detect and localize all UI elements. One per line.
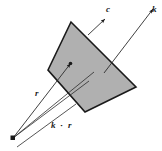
figure-container: c k r k · r bbox=[0, 0, 162, 151]
velocity-vector-c bbox=[88, 19, 105, 35]
label-c: c bbox=[106, 4, 110, 14]
label-k: k bbox=[152, 4, 157, 14]
label-k-dot-r: k · r bbox=[51, 120, 72, 130]
field-point-dot bbox=[69, 62, 73, 66]
origin-point bbox=[11, 136, 16, 141]
plane-wave-diagram: c k r k · r bbox=[0, 0, 162, 151]
label-k-dot-r-r: r bbox=[68, 120, 72, 130]
label-r: r bbox=[35, 88, 39, 98]
label-k-dot-r-k: k bbox=[51, 120, 56, 130]
wave-vector-k bbox=[104, 9, 153, 73]
label-k-dot-r-operator: · bbox=[60, 120, 63, 130]
